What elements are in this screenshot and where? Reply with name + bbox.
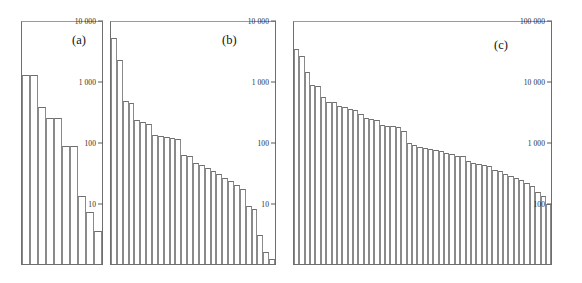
y-tick-mark-c-3	[547, 204, 552, 205]
y-tick-c-3: 100	[533, 200, 552, 209]
y-tick-mark-c-1	[547, 82, 552, 83]
figure-histograms-log-scale: 10 0001 00010010 (a) 10 0001 00010010 (b…	[0, 0, 582, 283]
y-tick-c-0: 100 000	[520, 17, 552, 26]
y-tick-mark-c-2	[547, 143, 552, 144]
y-tick-label-c-0: 100 000	[520, 17, 545, 26]
y-tick-c-2: 1 000	[528, 139, 552, 148]
y-axis-ticks-c: 100 00010 0001 000100	[0, 0, 552, 283]
panel-label-c: (c)	[494, 38, 508, 53]
y-tick-label-c-3: 100	[533, 200, 545, 209]
y-tick-label-c-1: 10 000	[524, 78, 545, 87]
y-tick-mark-c-0	[547, 21, 552, 22]
y-tick-label-c-2: 1 000	[528, 139, 545, 148]
y-tick-c-1: 10 000	[524, 78, 552, 87]
